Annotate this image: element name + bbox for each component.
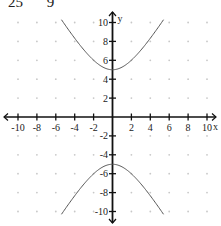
y-tick-label: -4 <box>100 149 108 160</box>
grid-dot <box>55 173 57 175</box>
grid-dot <box>74 135 76 137</box>
grid-dot <box>74 59 76 61</box>
grid-dot <box>36 135 38 137</box>
grid-dot <box>74 97 76 99</box>
grid-dot <box>149 78 151 80</box>
grid-dot <box>168 211 170 213</box>
grid-dot <box>55 22 57 24</box>
grid-dot <box>74 22 76 24</box>
x-axis-label: x <box>213 121 218 132</box>
tick-labels: -10-8-6-4-2246810108642-2-4-6-8-10xy <box>11 13 218 218</box>
grid-dot <box>17 97 19 99</box>
grid-dot <box>36 192 38 194</box>
grid-dot <box>168 41 170 43</box>
grid-dot <box>93 135 95 137</box>
x-tick-label: 4 <box>148 122 153 133</box>
grid-dot <box>36 41 38 43</box>
grid-dot <box>55 154 57 156</box>
y-tick-label: 10 <box>98 17 108 28</box>
grid-dot <box>93 22 95 24</box>
grid-dot <box>206 22 208 24</box>
x-tick-label: -4 <box>71 122 79 133</box>
grid-dot <box>17 41 19 43</box>
y-tick-label: -2 <box>100 130 108 141</box>
grid-dot <box>187 97 189 99</box>
y-tick-label: 8 <box>103 36 108 47</box>
grid-dot <box>74 78 76 80</box>
y-tick-label: -6 <box>100 168 108 179</box>
grid-dot <box>17 173 19 175</box>
grid-dot <box>149 211 151 213</box>
grid-dot <box>55 41 57 43</box>
grid-dot <box>187 173 189 175</box>
grid-dot <box>168 135 170 137</box>
grid-dot <box>187 41 189 43</box>
grid-dot <box>131 97 133 99</box>
grid-dot <box>206 59 208 61</box>
x-tick-label: 2 <box>129 122 134 133</box>
grid-dot <box>149 192 151 194</box>
grid-dot <box>206 211 208 213</box>
grid-dot <box>149 22 151 24</box>
grid-dot <box>74 41 76 43</box>
grid-dot <box>36 211 38 213</box>
grid-dot <box>55 192 57 194</box>
grid-dot <box>187 154 189 156</box>
x-tick-label: -6 <box>52 122 60 133</box>
grid-dot <box>36 59 38 61</box>
grid-dot <box>168 78 170 80</box>
y-axis-label: y <box>118 13 123 24</box>
grid-dot <box>187 192 189 194</box>
grid-dot <box>36 22 38 24</box>
grid-dot <box>168 59 170 61</box>
grid-dot <box>131 41 133 43</box>
grid-dot <box>93 78 95 80</box>
grid-dot <box>74 192 76 194</box>
grid-dot <box>149 154 151 156</box>
grid-dot <box>74 211 76 213</box>
grid-dot <box>206 78 208 80</box>
grid-dot <box>206 154 208 156</box>
axes <box>4 12 216 223</box>
grid-dot <box>168 154 170 156</box>
grid-dot <box>149 59 151 61</box>
grid-dot <box>55 97 57 99</box>
grid-dot <box>206 135 208 137</box>
grid-dot <box>36 78 38 80</box>
grid-dot <box>93 41 95 43</box>
x-tick-label: 6 <box>167 122 172 133</box>
grid-dot <box>55 59 57 61</box>
grid-dot <box>149 97 151 99</box>
grid-dot <box>55 78 57 80</box>
grid-dot <box>149 173 151 175</box>
grid-dot <box>17 135 19 137</box>
y-tick-label: 4 <box>103 74 108 85</box>
grid-dot <box>17 211 19 213</box>
y-tick-label: 2 <box>103 93 108 104</box>
y-tick-label: -10 <box>95 206 108 217</box>
grid-dot <box>149 41 151 43</box>
grid-dot <box>36 97 38 99</box>
grid-dot <box>36 154 38 156</box>
grid-dot <box>55 135 57 137</box>
grid-dot <box>206 41 208 43</box>
grid-dot <box>131 22 133 24</box>
grid-dot <box>187 135 189 137</box>
grid-dot <box>168 22 170 24</box>
grid-dot <box>17 192 19 194</box>
grid-dot <box>168 192 170 194</box>
grid-dot <box>93 192 95 194</box>
grid-dot <box>131 135 133 137</box>
grid-dot <box>187 22 189 24</box>
grid-dot <box>206 173 208 175</box>
y-tick-label: 6 <box>103 55 108 66</box>
grid-dot <box>93 154 95 156</box>
grid-dot <box>187 211 189 213</box>
grid-dot <box>93 97 95 99</box>
grid-dot <box>168 173 170 175</box>
grid-dot <box>17 78 19 80</box>
x-tick-label: -8 <box>33 122 41 133</box>
grid-dot <box>74 154 76 156</box>
grid-dot <box>187 59 189 61</box>
grid-dot <box>55 211 57 213</box>
